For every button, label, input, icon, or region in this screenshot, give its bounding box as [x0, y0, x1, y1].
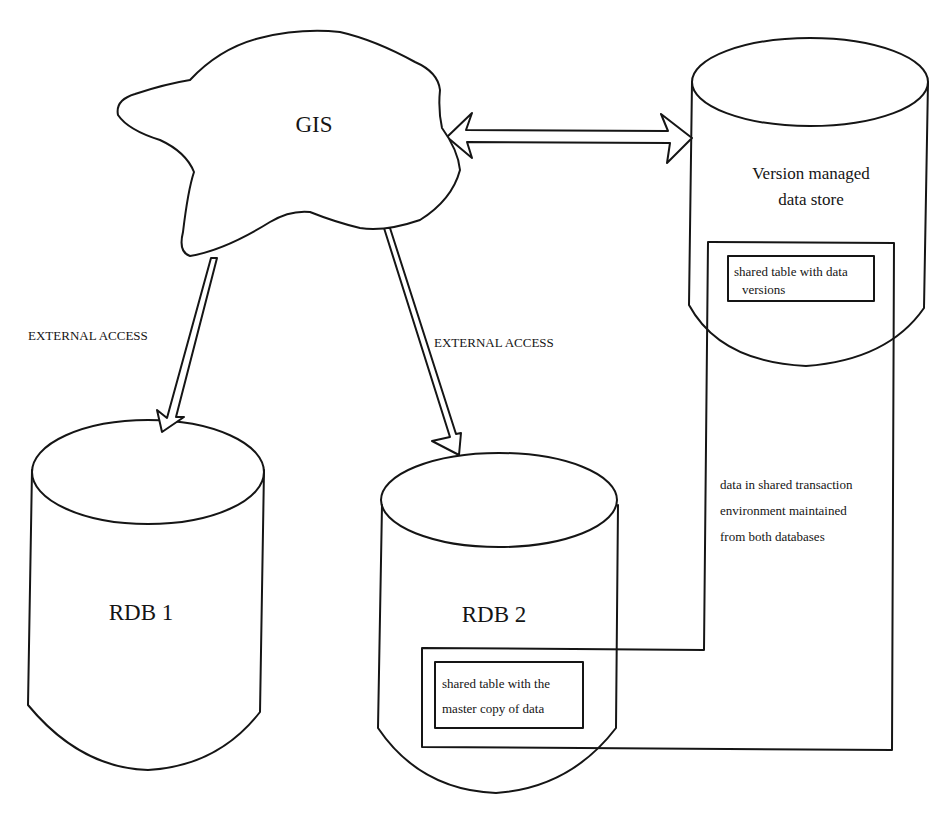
master-table-box[interactable] — [435, 662, 583, 728]
master-table-line2: master copy of data — [442, 701, 544, 716]
annotation-line1: data in shared transaction — [720, 477, 853, 492]
gis-cloud[interactable]: GIS — [118, 31, 460, 256]
double-arrow-shape — [447, 113, 692, 163]
shared-environment-connector — [422, 242, 894, 750]
arrow-gis-to-rdb1: EXTERNAL ACCESS — [28, 258, 217, 432]
version-store-top — [692, 38, 928, 126]
arrow-gis-rdb1-shape — [157, 258, 217, 432]
arrow-gis-to-version-store — [447, 113, 692, 163]
external-access-label-rdb1: EXTERNAL ACCESS — [28, 328, 148, 343]
shared-environment-outline — [422, 242, 894, 750]
version-store-title-line2: data store — [778, 190, 844, 209]
version-store-body — [689, 82, 928, 366]
version-store-title-line1: Version managed — [752, 164, 870, 183]
external-access-label-rdb2: EXTERNAL ACCESS — [434, 335, 554, 350]
annotation-line3: from both databases — [720, 529, 825, 544]
rdb1-top — [32, 420, 264, 524]
version-table-line2: versions — [742, 282, 785, 297]
rdb2-top — [381, 453, 617, 547]
version-store-cylinder[interactable]: Version managed data store shared table … — [689, 38, 928, 366]
gis-cloud-shape — [118, 31, 460, 256]
rdb2-cylinder[interactable]: RDB 2 shared table with the master copy … — [378, 453, 618, 793]
rdb2-label: RDB 2 — [462, 602, 527, 627]
annotation-line2: environment maintained — [720, 503, 847, 518]
arrow-gis-to-rdb2: EXTERNAL ACCESS — [384, 228, 554, 455]
version-table-line1: shared table with data — [734, 264, 848, 279]
rdb1-cylinder[interactable]: RDB 1 — [28, 420, 264, 770]
master-table-line1: shared table with the — [442, 676, 550, 691]
shared-environment-annotation: data in shared transaction environment m… — [720, 477, 853, 544]
diagram-canvas: Version managed data store shared table … — [0, 0, 949, 814]
rdb1-label: RDB 1 — [109, 600, 174, 625]
gis-label: GIS — [295, 112, 332, 137]
